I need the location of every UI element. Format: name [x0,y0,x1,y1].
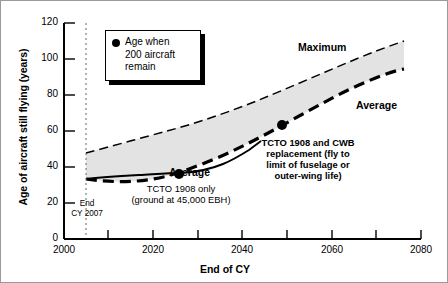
x-tick-label-2080: 2080 [398,244,444,255]
reference-line-label-line2: CY 2007 [71,209,103,218]
y-tick-label-60: 60 [32,124,58,135]
legend-line-2: 200 aircraft [125,49,175,60]
annotation-tcto-1908-only-line2: (ground at 45,000 EBH) [131,194,230,205]
x-tick-label-2060: 2060 [309,244,355,255]
y-tick-label-120: 120 [32,16,58,27]
x-tick-label-2020: 2020 [130,244,176,255]
y-tick-label-0: 0 [32,232,58,243]
series-label-average-lower: Average [169,166,210,178]
legend-entry-label: Age when 200 aircraft remain [125,36,175,74]
x-tick-label-2040: 2040 [219,244,265,255]
legend-entry: Age when 200 aircraft remain [112,36,194,74]
legend: Age when 200 aircraft remain [105,30,201,81]
filled-circle-icon [112,39,120,47]
chart-figure: Age of aircraft still flying (years) End… [0,0,448,283]
series-label-maximum: Maximum [298,41,346,53]
annotation-cwb-line4: outer-wing life) [274,170,341,181]
y-axis-ticks [64,23,75,203]
annotation-cwb-line2: replacement (fly to [266,148,349,159]
data-point-200-aircraft-remain-2 [277,120,287,130]
y-tick-label-100: 100 [32,52,58,63]
annotation-tcto-1908-and-cwb: TCTO 1908 and CWB replacement (fly to li… [233,137,383,181]
series-label-average-upper: Average [356,99,397,111]
annotation-tcto-1908-only: TCTO 1908 only (ground at 45,000 EBH) [111,183,251,205]
annotation-tcto-1908-only-line1: TCTO 1908 only [147,183,216,194]
legend-line-3: remain [125,61,156,72]
y-tick-label-80: 80 [32,88,58,99]
annotation-cwb-line3: limit of fuselage or [266,159,349,170]
x-axis-title: End of CY [1,263,448,275]
x-tick-label-2000: 2000 [41,244,87,255]
y-tick-label-40: 40 [32,160,58,171]
reference-line-label: End CY 2007 [61,199,113,218]
x-axis-ticks [64,230,421,239]
annotation-cwb-line1: TCTO 1908 and CWB [261,137,354,148]
legend-line-1: Age when [125,36,169,47]
y-tick-label-20: 20 [32,196,58,207]
y-axis-title: Age of aircraft still flying (years) [17,27,29,227]
reference-line-label-line1: End [80,199,95,208]
